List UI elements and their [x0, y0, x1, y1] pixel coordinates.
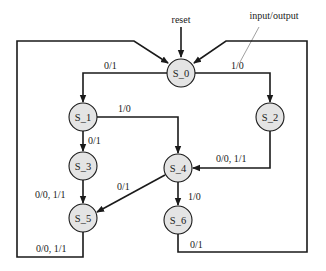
state-label-s6: S_6	[170, 215, 186, 226]
edge-label-s5-s0: 0/0, 1/1	[36, 243, 67, 254]
edge-label-s0-s1: 0/1	[104, 60, 117, 71]
edge-s1-s4: 1/0	[97, 103, 178, 153]
legend-pointer	[240, 27, 259, 62]
edge-label-s0-s2: 1/0	[231, 60, 244, 71]
state-label-s1: S_1	[75, 112, 91, 123]
state-s6: S_6	[164, 206, 192, 234]
edge-s4-s5: 0/1	[97, 175, 165, 212]
state-diagram: reset input/output 0/0, 1/1 0/1 0/1 1/0 …	[0, 0, 326, 271]
edge-s0-s2: 1/0	[195, 60, 270, 102]
state-label-s5: S_5	[75, 213, 91, 224]
edge-label-s4-s5: 0/1	[117, 181, 130, 192]
edge-s4-s6: 1/0	[178, 182, 201, 205]
state-label-s3: S_3	[75, 161, 91, 172]
state-s5: S_5	[69, 204, 97, 232]
edge-label-s4-s6: 1/0	[188, 191, 201, 202]
reset-label: reset	[172, 14, 191, 25]
state-s4: S_4	[164, 154, 192, 182]
state-s0: S_0	[167, 59, 195, 87]
state-label-s0: S_0	[173, 68, 189, 79]
edge-s0-s1: 0/1	[83, 60, 167, 102]
edge-label-s6-s0: 0/1	[190, 239, 203, 250]
state-s3: S_3	[69, 152, 97, 180]
state-label-s2: S_2	[262, 112, 278, 123]
edge-s1-s3: 0/1	[83, 131, 101, 151]
legend-label: input/output	[250, 10, 299, 21]
edge-s3-s5: 0/0, 1/1	[35, 180, 83, 203]
edge-label-s2-s4: 0/0, 1/1	[216, 153, 247, 164]
edge-s2-s4: 0/0, 1/1	[193, 131, 270, 168]
edge-label-s3-s5: 0/0, 1/1	[35, 189, 66, 200]
edge-label-s1-s4: 1/0	[118, 103, 131, 114]
edge-label-s1-s3: 0/1	[88, 135, 101, 146]
state-s2: S_2	[256, 103, 284, 131]
state-s1: S_1	[69, 103, 97, 131]
state-label-s4: S_4	[170, 163, 187, 174]
